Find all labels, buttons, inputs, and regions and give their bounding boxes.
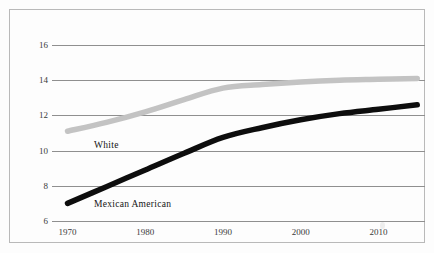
- y-axis-tick-14: 14: [22, 75, 48, 85]
- series-label-white: White: [94, 140, 119, 150]
- x-axis-tick-1970: 1970: [59, 227, 77, 237]
- series-line-white: [68, 78, 418, 131]
- series-lines: [52, 45, 425, 221]
- scan-speckle: [380, 222, 385, 229]
- plot-area: White Mexican American: [52, 45, 425, 221]
- chart-screenshot: 16 14 12 10 8 6 White Mexican American 1…: [0, 0, 434, 253]
- x-axis-tick-1990: 1990: [214, 227, 232, 237]
- y-axis-tick-16: 16: [22, 40, 48, 50]
- y-axis-tick-6: 6: [22, 216, 48, 226]
- y-axis-tick-8: 8: [22, 181, 48, 191]
- gridline-6: [52, 221, 425, 222]
- series-label-mexican-american: Mexican American: [94, 199, 171, 209]
- x-axis-tick-labels: 1970 1980 1990 2000 2010: [52, 224, 425, 244]
- y-axis-tick-labels: 16 14 12 10 8 6: [10, 45, 48, 221]
- x-axis-tick-2000: 2000: [292, 227, 310, 237]
- y-axis-tick-12: 12: [22, 110, 48, 120]
- x-axis-tick-1980: 1980: [136, 227, 154, 237]
- chart-frame: 16 14 12 10 8 6 White Mexican American 1…: [9, 9, 425, 243]
- x-axis-tick-2010: 2010: [369, 227, 387, 237]
- y-axis-tick-10: 10: [22, 146, 48, 156]
